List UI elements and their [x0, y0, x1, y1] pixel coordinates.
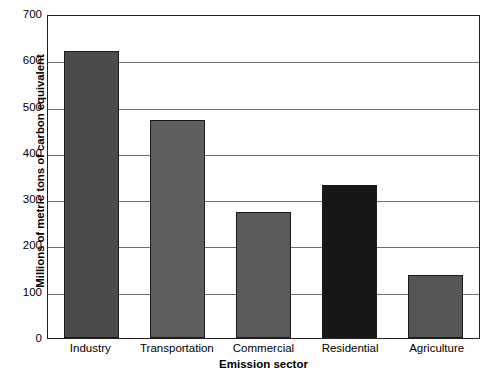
y-axis-tick-labels: 0100200300400500600700 [16, 0, 42, 374]
bar-transportation[interactable] [150, 120, 205, 338]
x-tick-label: Transportation [134, 342, 221, 354]
bar-industry[interactable] [64, 51, 119, 338]
y-tick-label: 600 [23, 55, 42, 67]
bar-residential[interactable] [322, 185, 377, 338]
y-tick-label: 400 [23, 148, 42, 160]
bar-slot [307, 16, 393, 338]
x-tick-label: Industry [47, 342, 134, 354]
x-axis-tick-labels: IndustryTransportationCommercialResident… [47, 342, 480, 354]
y-tick-label: 0 [36, 333, 42, 345]
bar-series [48, 16, 479, 338]
y-tick-label: 200 [23, 240, 42, 252]
bar-slot [48, 16, 134, 338]
bar-slot [134, 16, 220, 338]
bar-agriculture[interactable] [408, 275, 463, 338]
x-tick-label: Agriculture [393, 342, 480, 354]
y-tick-label: 500 [23, 102, 42, 114]
x-tick-label: Residential [307, 342, 394, 354]
bar-slot [220, 16, 306, 338]
y-tick-label: 700 [23, 9, 42, 21]
y-tick-label: 100 [23, 287, 42, 299]
x-tick-label: Commercial [220, 342, 307, 354]
bar-slot [393, 16, 479, 338]
bar-commercial[interactable] [236, 212, 291, 338]
y-tick-label: 300 [23, 194, 42, 206]
plot-area [47, 15, 480, 339]
bar-chart-figure: Millions of metric tons of carbon equiva… [0, 0, 488, 374]
x-axis-title: Emission sector [47, 358, 480, 370]
